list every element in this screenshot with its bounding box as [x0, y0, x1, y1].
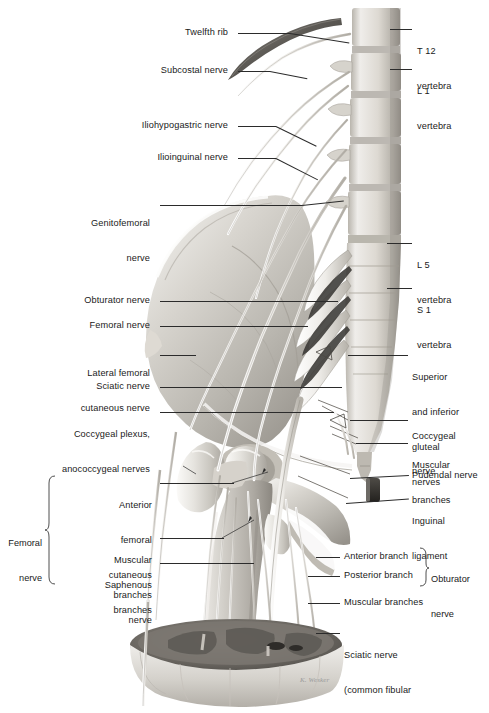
label-sciatic-nerve: Sciatic nerve: [40, 381, 150, 393]
leader-genitofemoral-diag: [302, 201, 344, 206]
leader-muscular-fem: [160, 538, 224, 539]
figure-canvas: K. Wesker Twelfth rib Subcostal nerve Il…: [0, 0, 489, 713]
label-twelfth-rib: Twelfth rib: [110, 27, 228, 39]
label-l1-vertebra: L 1 vertebra: [417, 63, 483, 156]
leader-inguinal-ligament: [346, 499, 409, 504]
label-anterior-branch: Anterior branch: [344, 551, 418, 563]
leader-iliohypogastric: [238, 126, 276, 127]
label-iliohypogastric-nerve: Iliohypogastric nerve: [90, 120, 228, 132]
obturator-nerve-bracket: [418, 546, 430, 588]
artist-signature: K. Wesker: [300, 676, 329, 684]
leader-ilioinguinal: [238, 158, 276, 159]
leader-saphenous: [160, 563, 254, 564]
leader-lat-fem-cutaneous: [160, 355, 196, 356]
label-genitofemoral-nerve: Genitofemoral nerve: [40, 195, 150, 288]
leader-coccygeal-nerve: [350, 420, 408, 421]
label-obturator-nerve: Obturator nerve: [40, 295, 150, 307]
leader-anterior-branch: [316, 557, 340, 558]
leader-ant-fem-cut: [160, 483, 234, 484]
label-saphenous-nerve: Saphenous nerve: [66, 557, 152, 650]
leader-muscular-obturator: [308, 603, 340, 604]
leader-l1: [390, 69, 412, 70]
leader-posterior-branch: [308, 576, 340, 577]
femoral-nerve-bracket: [44, 474, 58, 586]
label-pudendal-nerve: Pudendal nerve: [412, 470, 489, 482]
leader-obturator: [160, 301, 338, 302]
leader-genitofemoral: [160, 205, 302, 206]
leader-twelfth-rib-diag: [290, 33, 349, 43]
leader-l5: [387, 243, 412, 244]
leader-femoral-nerve-top: [160, 326, 308, 327]
leader-twelfth-rib: [238, 33, 290, 34]
leader-pudendal: [350, 475, 409, 479]
label-posterior-branch: Posterior branch: [344, 570, 420, 582]
label-femoral-nerve: Femoral nerve: [40, 320, 150, 332]
label-sciatic-nerve-bottom: Sciatic nerve (common fibular nerve and …: [344, 627, 484, 713]
leader-sciatic-top: [160, 387, 342, 388]
leader-subcostal: [238, 71, 270, 72]
leader-gluteal-nerves: [348, 355, 408, 356]
leader-subcostal-diag: [270, 71, 307, 79]
leader-muscular-sacral: [356, 443, 408, 444]
label-femoral-nerve-group: Femoral nerve: [2, 515, 42, 608]
label-muscular-branches-obturator: Muscular branches: [344, 597, 454, 609]
leader-sciatic-bottom: [316, 633, 340, 634]
leader-s1: [387, 288, 412, 289]
leader-t12: [390, 29, 412, 30]
leader-coccygeal-plexus: [160, 412, 334, 413]
label-ilioinguinal-nerve: Ilioinguinal nerve: [98, 152, 228, 164]
leader-ilioinguinal-diag: [276, 158, 318, 180]
label-subcostal-nerve: Subcostal nerve: [100, 65, 228, 77]
leader-iliohypogastric-diag: [276, 126, 317, 146]
